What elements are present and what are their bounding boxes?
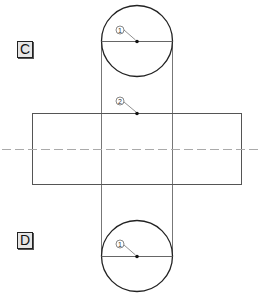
- marker-text-1-d: 1: [118, 241, 122, 248]
- point-dot-c: [135, 40, 139, 44]
- point-dot-2: [135, 112, 139, 116]
- technical-drawing: 1 2 1: [0, 0, 259, 294]
- marker-text-1-c: 1: [118, 27, 122, 34]
- marker-text-2: 2: [118, 98, 122, 105]
- view-label-d: D: [17, 232, 33, 249]
- view-label-c: C: [17, 41, 33, 58]
- leader-line-2: [124, 102, 136, 112]
- point-dot-d: [135, 255, 139, 259]
